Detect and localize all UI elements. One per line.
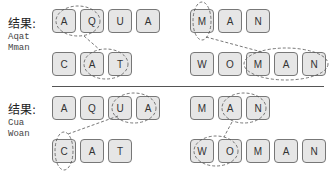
match-ellipse [222, 93, 266, 123]
match-ellipse [84, 49, 128, 79]
match-connector [84, 36, 100, 50]
match-connector [206, 37, 262, 52]
match-overlay [0, 0, 334, 173]
match-ellipse [194, 136, 238, 166]
match-ellipse [56, 6, 100, 36]
match-ellipse [55, 132, 73, 170]
match-ellipse [193, 2, 211, 40]
match-connector [224, 122, 232, 137]
match-connector [68, 116, 118, 134]
match-ellipse [112, 93, 156, 123]
match-ellipse [244, 48, 328, 80]
